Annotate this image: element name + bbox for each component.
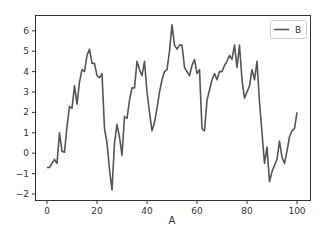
y-tick-label: −1	[16, 169, 29, 179]
x-tick-label: 60	[191, 206, 203, 216]
y-tick-label: 2	[23, 107, 29, 117]
x-tick-label: 20	[91, 206, 103, 216]
legend-label-b: B	[295, 25, 301, 35]
x-tick-label: 100	[288, 206, 305, 216]
x-tick-label: 40	[141, 206, 153, 216]
x-tick-label: 80	[241, 206, 253, 216]
y-axis: −2−10123456	[16, 26, 36, 199]
y-tick-label: 1	[23, 128, 29, 138]
legend: B	[271, 21, 307, 39]
y-tick-label: −2	[16, 189, 29, 199]
y-tick-label: 0	[23, 148, 29, 158]
x-axis: 020406080100	[44, 201, 306, 217]
y-tick-label: 6	[23, 26, 29, 36]
y-tick-label: 4	[23, 67, 29, 77]
x-axis-label: A	[169, 215, 176, 226]
y-tick-label: 5	[23, 46, 29, 56]
y-tick-label: 3	[23, 87, 29, 97]
line-chart: −2−10123456 020406080100 A B	[0, 0, 325, 234]
x-tick-label: 0	[44, 206, 50, 216]
